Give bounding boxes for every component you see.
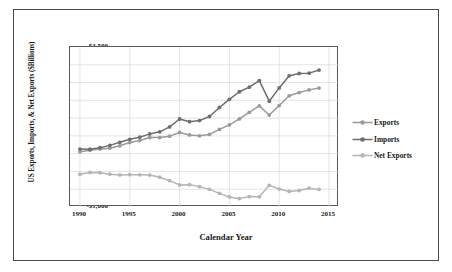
series-marker <box>168 179 172 183</box>
series-marker <box>118 173 122 177</box>
x-axis-tick-label: 2015 <box>308 210 348 218</box>
series-marker <box>257 195 261 199</box>
series-marker <box>158 136 162 140</box>
series-marker <box>247 110 251 114</box>
series-marker <box>218 191 222 195</box>
x-axis-tick-label: 2010 <box>258 210 298 218</box>
series-marker <box>317 68 321 72</box>
legend-marker-icon <box>352 118 373 127</box>
legend-marker-icon <box>352 135 373 144</box>
series-marker <box>148 132 152 136</box>
series-marker <box>168 134 172 138</box>
y-axis-title: US Exports, Imports, & Net Exports ($Bil… <box>28 32 36 192</box>
series-marker <box>237 117 241 121</box>
series-marker <box>228 97 232 101</box>
series-marker <box>88 171 92 175</box>
series-marker <box>228 123 232 127</box>
series-marker <box>277 104 281 108</box>
legend-item[interactable]: Imports <box>352 135 436 144</box>
series-marker <box>128 173 132 177</box>
series-marker <box>287 190 291 194</box>
series-marker <box>237 197 241 201</box>
series-marker <box>267 183 271 187</box>
series-marker <box>128 141 132 145</box>
series-marker <box>307 71 311 75</box>
series-marker <box>88 147 92 151</box>
series-marker <box>267 99 271 103</box>
series-marker <box>297 189 301 193</box>
series-marker <box>297 91 301 95</box>
legend-marker-icon <box>352 151 373 160</box>
series-marker <box>317 188 321 192</box>
series-marker <box>178 131 182 135</box>
series-marker <box>188 120 192 124</box>
legend-item-label: Net Exports <box>374 151 412 160</box>
series-marker <box>247 195 251 199</box>
series-marker <box>218 106 222 110</box>
series-marker <box>148 173 152 177</box>
series-marker <box>138 135 142 139</box>
series-marker <box>287 74 291 78</box>
series-marker <box>158 175 162 179</box>
series-marker <box>208 187 212 191</box>
series-marker <box>118 144 122 148</box>
legend-item-label: Imports <box>374 135 399 144</box>
series-marker <box>168 125 172 129</box>
chart-figure: US Exports, Imports, & Net Exports ($Bil… <box>13 9 439 261</box>
series-marker <box>108 172 112 176</box>
series-marker <box>307 88 311 92</box>
series-marker <box>198 185 202 189</box>
x-axis-tick-label: 2000 <box>159 210 199 218</box>
series-marker <box>257 104 261 108</box>
series-marker <box>148 136 152 140</box>
series-marker <box>277 86 281 90</box>
series-marker <box>98 171 102 175</box>
series-marker <box>267 113 271 117</box>
series-marker <box>178 183 182 187</box>
series-marker <box>108 143 112 147</box>
series-marker <box>247 85 251 89</box>
series-marker <box>178 117 182 121</box>
series-marker <box>307 186 311 190</box>
series-marker <box>188 133 192 137</box>
legend-item[interactable]: Exports <box>352 118 436 127</box>
series-marker <box>158 130 162 134</box>
plot-area <box>69 46 338 206</box>
series-marker <box>138 173 142 177</box>
series-marker <box>78 172 82 176</box>
series-marker <box>188 183 192 187</box>
series-marker <box>128 137 132 141</box>
series-canvas <box>70 47 339 207</box>
x-axis-title: Calendar Year <box>14 232 438 242</box>
series-marker <box>317 86 321 90</box>
series-marker <box>218 128 222 132</box>
series-marker <box>277 187 281 191</box>
series-marker <box>228 195 232 199</box>
series-marker <box>98 146 102 150</box>
series-marker <box>208 115 212 119</box>
series-marker <box>297 72 301 76</box>
series-marker <box>198 134 202 138</box>
legend-item[interactable]: Net Exports <box>352 151 436 160</box>
x-axis-tick-label: 1990 <box>59 210 99 218</box>
series-marker <box>78 147 82 151</box>
x-axis-tick-label: 2005 <box>208 210 248 218</box>
chart-legend: ExportsImportsNet Exports <box>352 118 436 160</box>
series-marker <box>118 140 122 144</box>
series-marker <box>237 90 241 94</box>
x-axis-tick-label: 1995 <box>109 210 149 218</box>
series-marker <box>198 119 202 123</box>
series-marker <box>287 94 291 98</box>
series-marker <box>138 139 142 143</box>
series-marker <box>208 133 212 137</box>
legend-item-label: Exports <box>374 118 399 127</box>
series-marker <box>257 79 261 83</box>
